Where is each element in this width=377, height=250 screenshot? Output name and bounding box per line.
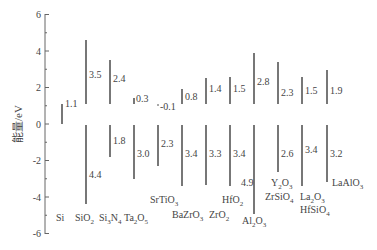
name-hfo2: HfO2 — [222, 194, 244, 208]
y-axis — [45, 14, 49, 234]
label-si3n4-cb: 2.4 — [113, 73, 126, 84]
label-laalo3-vb: 3.2 — [330, 148, 343, 159]
label-hfo2-vb: 3.4 — [233, 148, 246, 159]
label-si-gap: 1.1 — [65, 98, 78, 109]
y-tick-4: 4 — [36, 46, 41, 57]
label-si3n4-vb: 1.8 — [113, 135, 126, 146]
label-hfo2-cb: 1.5 — [233, 83, 246, 94]
label-ta2o5-cb: 0.3 — [136, 93, 149, 104]
y-tick-6: 6 — [36, 9, 41, 20]
y-tick-neg6: -6 — [33, 228, 41, 239]
y-tick-neg2: -2 — [33, 155, 41, 166]
label-bazro3-vb: 3.4 — [185, 148, 198, 159]
label-zro2-cb: 1.4 — [209, 83, 222, 94]
label-srtio3-vb: 2.3 — [161, 138, 174, 149]
name-si: Si — [56, 212, 65, 223]
name-hfsio4: HfSiO4 — [300, 204, 330, 218]
label-al2o3-vb: 4.9 — [241, 177, 254, 188]
label-sio2-cb: 3.5 — [89, 69, 102, 80]
name-bazro3: BaZrO3 — [172, 209, 204, 223]
y-tick-0: 0 — [36, 119, 41, 130]
name-zrsio4: ZrSiO4 — [265, 191, 294, 205]
name-si3n4: Si3N4 — [99, 212, 122, 226]
name-zro2: ZrO2 — [209, 209, 230, 223]
name-ta2o5: Ta2O5 — [124, 212, 149, 226]
label-bazro3-cb: 0.8 — [185, 91, 198, 102]
name-laalo3: LaAlO3 — [332, 177, 364, 191]
y-tick-neg4: -4 — [33, 192, 41, 203]
name-srtio3: SrTiO3 — [150, 194, 179, 208]
value-labels: 1.1 3.5 4.4 2.4 1.8 0.3 3.0 -0.1 2.3 0.8… — [65, 69, 343, 188]
name-y2o3: Y2O3 — [271, 177, 293, 191]
label-la2o3-vb: 3.4 — [305, 144, 318, 155]
y-tick-labels: 6 4 2 0 -2 -4 -6 — [33, 9, 41, 239]
label-laalo3-cb: 1.9 — [330, 85, 343, 96]
label-srtio3-cb: -0.1 — [160, 101, 176, 112]
band-offset-chart: 6 4 2 0 -2 -4 -6 能量/eV — [0, 0, 377, 250]
name-la2o3: La2O3 — [300, 191, 325, 205]
label-y2o3-cb: 2.3 — [281, 87, 294, 98]
y-tick-2: 2 — [36, 82, 41, 93]
label-ta2o5-vb: 3.0 — [137, 148, 150, 159]
label-la2o3-cb: 1.5 — [305, 85, 318, 96]
name-sio2: SiO2 — [75, 212, 95, 226]
label-sio2-vb: 4.4 — [89, 169, 102, 180]
label-y2o3-vb: 2.6 — [281, 148, 294, 159]
name-al2o3: Al2O3 — [242, 215, 267, 229]
label-al2o3-cb: 2.8 — [257, 76, 270, 87]
material-names: Si SiO2 Si3N4 Ta2O5 SrTiO3 BaZrO3 ZrO2 H… — [56, 177, 364, 229]
y-axis-label: 能量/eV — [11, 105, 24, 143]
label-zro2-vb: 3.3 — [209, 148, 222, 159]
